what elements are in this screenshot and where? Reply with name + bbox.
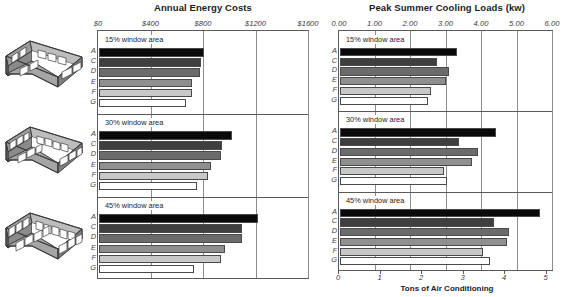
group-label: 15% window area: [344, 35, 406, 44]
bar: [340, 48, 457, 56]
series-row-label: A: [86, 46, 96, 55]
bar: [340, 97, 428, 105]
gridline: [308, 31, 309, 278]
bar: [340, 228, 509, 236]
series-row-label: C: [327, 136, 337, 145]
bar: [99, 214, 258, 223]
series-row-label: G: [86, 263, 96, 272]
series-row-label: F: [86, 253, 96, 262]
series-row-label: G: [327, 175, 337, 184]
group-label: 45% window area: [103, 201, 165, 210]
bar: [340, 218, 494, 226]
secondary-x-tick-label: 3: [451, 273, 475, 282]
series-row-label: E: [86, 160, 96, 169]
bar: [99, 172, 208, 181]
series-row-label: C: [86, 56, 96, 65]
bar: [99, 245, 225, 254]
x-tick-label: 1.00: [362, 19, 388, 28]
chart-annual-energy-costs: Annual Energy Costs 15% window area30% w…: [88, 0, 318, 297]
series-row-label: G: [327, 95, 337, 104]
bar: [99, 265, 194, 274]
building-15-window-area-icon: [2, 24, 86, 100]
x-tick-label: $800: [190, 19, 216, 28]
series-row-label: D: [327, 226, 337, 235]
bar: [99, 58, 201, 67]
series-row-label: A: [86, 129, 96, 138]
series-row-label: G: [86, 180, 96, 189]
series-row-label: D: [327, 65, 337, 74]
bar: [99, 48, 204, 57]
gridline: [517, 31, 518, 270]
series-row-label: A: [327, 207, 337, 216]
secondary-x-tick: [421, 271, 422, 274]
secondary-x-tick: [546, 271, 547, 274]
group-label: 15% window area: [103, 35, 165, 44]
building-45-window-area-icon: [2, 196, 86, 272]
x-tick-label: 5.00: [504, 19, 530, 28]
bar: [340, 87, 431, 95]
series-row-label: C: [86, 222, 96, 231]
series-row-label: F: [86, 87, 96, 96]
series-row-label: D: [86, 66, 96, 75]
bar: [340, 58, 437, 66]
bar: [99, 89, 192, 98]
secondary-x-tick-label: 2: [409, 273, 433, 282]
series-row-label: C: [327, 216, 337, 225]
x-tick-label: 6.00: [539, 19, 565, 28]
secondary-x-tick-label: 4: [492, 273, 516, 282]
plot-area: 15% window area30% window area45% window…: [338, 30, 553, 271]
secondary-x-tick: [504, 271, 505, 274]
bar: [99, 131, 232, 140]
bar: [340, 77, 446, 85]
bar: [340, 177, 447, 185]
figure-root: Annual Energy Costs 15% window area30% w…: [0, 0, 568, 297]
series-row-label: C: [327, 56, 337, 65]
bar: [99, 151, 221, 160]
building-icon-column: [0, 0, 88, 297]
series-row-label: E: [327, 236, 337, 245]
bar: [340, 167, 444, 175]
chart-title: Annual Energy Costs: [88, 2, 318, 13]
secondary-x-tick-label: 1: [368, 273, 392, 282]
x-tick-label: 3.00: [433, 19, 459, 28]
x-tick-label: $0: [85, 19, 111, 28]
series-row-label: C: [86, 139, 96, 148]
bar: [99, 68, 200, 77]
bar: [99, 99, 186, 108]
bar: [99, 234, 242, 243]
x-tick-label: $1600: [295, 19, 321, 28]
group-separator: [98, 197, 308, 198]
bar: [340, 138, 459, 146]
series-row-label: E: [86, 77, 96, 86]
series-row-label: D: [327, 146, 337, 155]
bar: [99, 162, 211, 171]
bar: [340, 67, 449, 75]
group-label: 30% window area: [103, 118, 165, 127]
series-row-label: D: [86, 149, 96, 158]
building-30-window-area-icon: [2, 110, 86, 186]
bar: [340, 257, 490, 265]
series-row-label: E: [86, 243, 96, 252]
plot-area: 15% window area30% window area45% window…: [97, 30, 309, 279]
series-row-label: E: [327, 156, 337, 165]
series-row-label: F: [327, 246, 337, 255]
series-row-label: E: [327, 75, 337, 84]
x-tick-label: 0.00: [326, 19, 352, 28]
series-row-label: A: [327, 126, 337, 135]
series-row-label: D: [86, 232, 96, 241]
series-row-label: F: [327, 85, 337, 94]
x-axis-label: Tons of Air Conditioning: [326, 284, 568, 293]
group-label: 30% window area: [344, 115, 406, 124]
gridline: [256, 31, 257, 278]
bar: [99, 182, 197, 191]
x-tick-label: 2.00: [397, 19, 423, 28]
group-separator: [339, 111, 552, 112]
bar: [99, 224, 242, 233]
chart-title: Peak Summer Cooling Loads (kw): [326, 2, 568, 13]
series-row-label: A: [86, 212, 96, 221]
series-row-label: G: [86, 97, 96, 106]
group-label: 45% window area: [344, 196, 406, 205]
bar: [99, 141, 222, 150]
series-row-label: F: [86, 170, 96, 179]
secondary-x-tick: [338, 271, 339, 274]
